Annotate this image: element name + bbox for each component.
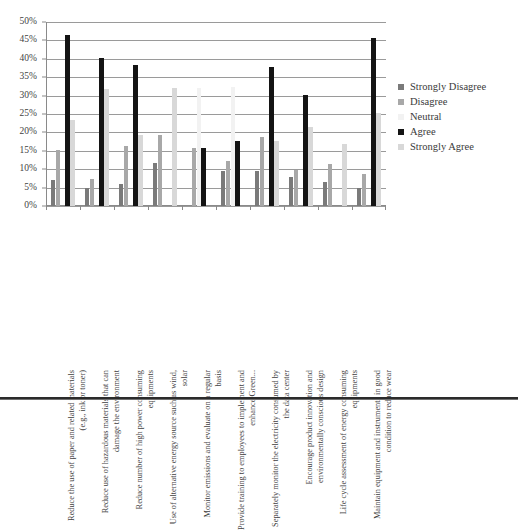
bar <box>172 88 176 206</box>
legend-item[interactable]: Agree <box>398 125 514 139</box>
bar <box>289 177 293 206</box>
bar <box>221 171 225 206</box>
bar <box>342 144 346 206</box>
legend-swatch-icon <box>398 114 404 120</box>
y-axis-tick-label: 30% <box>20 91 37 101</box>
legend-swatch-icon <box>398 144 404 150</box>
bar <box>362 174 366 206</box>
legend-swatch-icon <box>398 99 404 105</box>
legend-item-label: Strongly Disagree <box>410 82 486 93</box>
bar <box>138 135 142 206</box>
bar <box>124 146 128 206</box>
bar <box>328 164 332 206</box>
plot-area <box>46 22 386 206</box>
y-axis-tick-label: 35% <box>20 72 37 82</box>
bar-group <box>46 22 80 206</box>
x-axis-label: Monitor emissions and evaluate on a regu… <box>203 370 224 530</box>
bar-group <box>182 22 216 206</box>
y-axis-tick-label: 45% <box>20 36 37 46</box>
bar-group <box>318 22 352 206</box>
bar <box>201 148 205 206</box>
x-axis-label: Encourage product innovation and environ… <box>305 370 326 530</box>
x-axis-label: Reduce use of hazardous materials that c… <box>101 370 122 530</box>
chart-legend: Strongly DisagreeDisagreeNeutralAgreeStr… <box>398 80 514 155</box>
y-axis-tick-label: 10% <box>20 164 37 174</box>
x-axis-label: Maintain equipment and instruments in go… <box>373 370 394 530</box>
bar <box>99 58 103 206</box>
bar-group <box>80 22 114 206</box>
legend-swatch-icon <box>398 129 404 135</box>
bar <box>235 141 239 207</box>
y-axis-tick-label: 40% <box>20 54 37 64</box>
bar <box>119 184 123 206</box>
bar <box>376 113 380 206</box>
x-axis-label: Provide training to employees to impleme… <box>237 370 258 530</box>
bar <box>260 137 264 206</box>
bar <box>274 141 278 207</box>
bar-group <box>148 22 182 206</box>
legend-item-label: Disagree <box>410 97 447 108</box>
bar <box>357 188 361 206</box>
bar-group <box>284 22 318 206</box>
legend-item-label: Agree <box>410 127 436 138</box>
bar <box>70 120 74 206</box>
x-axis-label: Life cycle assessment of energy consumin… <box>339 370 360 530</box>
bar <box>65 35 69 206</box>
bar <box>85 188 89 206</box>
bar <box>371 38 375 206</box>
bar <box>303 95 307 206</box>
bar-group <box>114 22 148 206</box>
bar <box>192 148 196 206</box>
y-axis-tick-label: 5% <box>24 183 37 193</box>
legend-item[interactable]: Strongly Disagree <box>398 80 514 94</box>
legend-item[interactable]: Disagree <box>398 95 514 109</box>
bar <box>231 87 235 206</box>
y-axis-tick-label: 15% <box>20 146 37 156</box>
y-axis-tick-label: 25% <box>20 109 37 119</box>
legend-item-label: Strongly Agree <box>410 142 474 153</box>
bar <box>133 65 137 206</box>
bar <box>323 182 327 206</box>
legend-item[interactable]: Strongly Agree <box>398 140 514 154</box>
x-axis-label: Reduce the use of paper and related mate… <box>67 370 88 530</box>
legend-swatch-icon <box>398 84 404 90</box>
x-axis-label: Separately monitor the electricity consu… <box>271 370 292 530</box>
bar <box>104 89 108 206</box>
bar <box>56 150 60 206</box>
bar <box>226 161 230 206</box>
bar-group <box>250 22 284 206</box>
bottom-divider <box>0 397 518 400</box>
bar <box>269 67 273 206</box>
bar-group <box>216 22 250 206</box>
bar <box>197 88 201 206</box>
y-axis-tick-label: 50% <box>20 17 37 27</box>
bar <box>153 163 157 206</box>
x-axis-labels: Reduce the use of paper and related mate… <box>46 210 386 375</box>
y-axis-tick-label: 0% <box>24 201 37 211</box>
x-axis-label: Use of alternative energy source such as… <box>169 370 190 530</box>
bar <box>294 170 298 206</box>
bar <box>51 180 55 206</box>
y-axis-tick-label: 20% <box>20 128 37 138</box>
bar <box>308 127 312 206</box>
legend-item[interactable]: Neutral <box>398 110 514 124</box>
bar <box>255 171 259 206</box>
y-axis: 0%5%10%15%20%25%30%35%40%45%50% <box>0 22 46 206</box>
bars-layer <box>46 22 386 206</box>
bar-group <box>352 22 386 206</box>
bar <box>90 179 94 206</box>
x-axis-label: Reduce number of high power consuming eq… <box>135 370 156 530</box>
legend-item-label: Neutral <box>410 112 442 123</box>
bar <box>158 135 162 206</box>
